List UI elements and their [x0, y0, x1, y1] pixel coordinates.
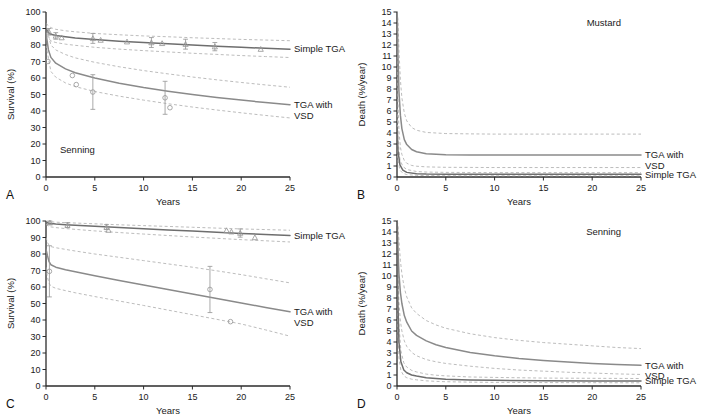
y-tick-label: 50	[30, 90, 40, 100]
y-tick-label: 30	[30, 123, 40, 133]
y-tick-label: 13	[381, 29, 391, 39]
curve-label-tga-vsd-line1: TGA with	[294, 306, 333, 317]
y-tick-label: 0	[386, 172, 391, 182]
survival-curve	[397, 221, 641, 381]
y-tick-label: 40	[30, 106, 40, 116]
group-label: Senning	[60, 144, 95, 155]
curve-label-simple-tga: Simple TGA	[645, 375, 697, 386]
confidence-band-curve	[397, 144, 641, 176]
y-tick-label: 14	[381, 227, 391, 237]
y-tick-label: 90	[30, 233, 40, 243]
y-tick-label: 7	[386, 304, 391, 314]
y-tick-label: 40	[30, 315, 40, 325]
x-tick-label: 10	[139, 183, 149, 193]
x-tick-label: 15	[187, 392, 197, 402]
y-tick-label: 1	[386, 370, 391, 380]
x-tick-label: 5	[443, 183, 448, 193]
y-tick-label: 6	[386, 315, 391, 325]
y-tick-label: 80	[30, 40, 40, 50]
data-point-circle	[74, 82, 79, 87]
panel-c-letter: C	[6, 397, 15, 411]
x-tick-label: 20	[236, 183, 246, 193]
y-tick-label: 0	[35, 172, 40, 182]
panel-a: 01020304050607080901000510152025YearsSur…	[0, 0, 351, 209]
confidence-band-curve	[397, 12, 641, 134]
x-tick-label: 0	[43, 392, 48, 402]
x-tick-label: 5	[443, 392, 448, 402]
panel-c: 01020304050607080901000510152025YearsSur…	[0, 209, 351, 418]
x-tick-label: 15	[538, 183, 548, 193]
y-tick-label: 12	[381, 249, 391, 259]
panel-a-letter: A	[6, 188, 14, 202]
x-tick-label: 25	[285, 392, 295, 402]
y-tick-label: 30	[30, 332, 40, 342]
panel-b-svg: 01234567891011121314150510152025YearsDea…	[351, 0, 702, 209]
panel-a-svg: 01020304050607080901000510152025YearsSur…	[0, 0, 351, 209]
y-tick-label: 8	[386, 84, 391, 94]
x-tick-label: 10	[139, 392, 149, 402]
confidence-band-curve	[397, 221, 641, 349]
x-tick-label: 20	[587, 392, 597, 402]
panel-title: Senning	[586, 226, 621, 237]
axes: 01234567891011121314150510152025	[381, 216, 646, 402]
confidence-band-curve	[397, 243, 641, 383]
y-axis-title: Death (%/year)	[356, 63, 367, 127]
curve-label-simple-tga: Simple TGA	[294, 230, 346, 241]
y-tick-label: 10	[381, 271, 391, 281]
y-tick-label: 100	[25, 7, 40, 17]
figure-container: 01020304050607080901000510152025YearsSur…	[0, 0, 702, 418]
y-tick-label: 3	[386, 348, 391, 358]
curve-label-simple-tga: Simple TGA	[645, 169, 697, 180]
y-tick-label: 3	[386, 139, 391, 149]
x-tick-label: 0	[394, 392, 399, 402]
x-tick-label: 15	[538, 392, 548, 402]
x-tick-label: 20	[236, 392, 246, 402]
panel-a-plot: 01020304050607080901000510152025YearsSur…	[0, 0, 351, 209]
y-tick-label: 10	[30, 365, 40, 375]
x-axis-title: Years	[507, 405, 531, 416]
curves-group	[397, 221, 641, 383]
y-tick-label: 100	[25, 216, 40, 226]
survival-curve	[397, 221, 641, 365]
y-tick-label: 9	[386, 282, 391, 292]
x-tick-label: 20	[587, 183, 597, 193]
data-point-circle	[70, 73, 75, 78]
curve-labels-group: TGA withVSDSimple TGA	[645, 360, 697, 387]
panel-b-plot: 01234567891011121314150510152025YearsDea…	[351, 0, 702, 209]
curve-label-tga-vsd-line1: TGA with	[645, 149, 684, 160]
y-tick-label: 5	[386, 117, 391, 127]
panel-d-letter: D	[357, 397, 366, 411]
y-tick-label: 10	[30, 156, 40, 166]
x-tick-label: 25	[285, 183, 295, 193]
confidence-band-curve	[397, 238, 641, 375]
y-tick-label: 9	[386, 73, 391, 83]
y-tick-label: 60	[30, 73, 40, 83]
survival-curve	[397, 12, 641, 155]
y-tick-label: 20	[30, 139, 40, 149]
curve-labels-group: Simple TGATGA withVSD	[294, 43, 346, 120]
y-axis-title: Survival (%)	[5, 69, 16, 120]
curves-group	[397, 12, 641, 176]
data-point-circle	[168, 105, 173, 110]
confidence-band-curve	[397, 221, 641, 379]
y-tick-label: 11	[382, 51, 391, 61]
y-tick-label: 0	[35, 381, 40, 391]
y-tick-label: 80	[30, 249, 40, 259]
axes: 01234567891011121314150510152025	[381, 7, 646, 193]
panel-b: 01234567891011121314150510152025YearsDea…	[351, 0, 702, 209]
y-tick-label: 2	[386, 150, 391, 160]
data-point-triangle	[252, 235, 257, 240]
confidence-band-curve	[46, 267, 290, 336]
curve-labels-group: TGA withVSDSimple TGA	[645, 149, 697, 179]
y-tick-label: 6	[386, 106, 391, 116]
y-tick-label: 8	[386, 293, 391, 303]
y-tick-label: 7	[386, 95, 391, 105]
curves-group	[46, 24, 290, 118]
x-axis-title: Years	[507, 196, 531, 207]
y-axis-title: Death (%/year)	[356, 272, 367, 336]
y-tick-label: 20	[30, 348, 40, 358]
x-tick-label: 0	[394, 183, 399, 193]
curve-label-simple-tga: Simple TGA	[294, 43, 346, 54]
panel-b-letter: B	[357, 188, 365, 202]
x-tick-label: 25	[636, 183, 646, 193]
